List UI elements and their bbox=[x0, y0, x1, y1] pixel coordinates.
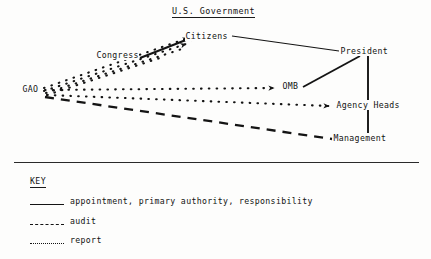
node-gao[interactable]: GAO bbox=[22, 84, 39, 94]
node-congress[interactable]: Congress bbox=[96, 50, 139, 60]
key-item-report: report bbox=[30, 234, 102, 246]
solid-edges bbox=[140, 36, 368, 138]
dashed-edges bbox=[45, 97, 332, 139]
key-item-audit: audit bbox=[30, 215, 96, 227]
node-citizens[interactable]: Citizens bbox=[185, 31, 228, 41]
edge-citizens-to-president bbox=[232, 36, 339, 51]
node-president[interactable]: President bbox=[340, 46, 389, 56]
edge-gao-fan-b bbox=[47, 58, 160, 95]
section-divider bbox=[14, 162, 419, 163]
diagram-page: U.S. Government bbox=[0, 0, 431, 259]
key-item-appointment: appointment, primary authority, responsi… bbox=[30, 195, 313, 207]
node-omb[interactable]: OMB bbox=[282, 81, 299, 91]
key-item-label: audit bbox=[70, 216, 96, 226]
edge-president-to-omb bbox=[303, 56, 360, 87]
edge-gao-to-agency-heads bbox=[47, 95, 329, 106]
key-legend: KEY appointment, primary authority, resp… bbox=[0, 168, 431, 259]
edge-gao-to-omb bbox=[45, 88, 274, 90]
dotted-line-swatch-icon bbox=[30, 235, 64, 245]
solid-line-swatch-icon bbox=[30, 196, 64, 206]
edge-gao-to-management bbox=[45, 97, 332, 139]
key-heading: KEY bbox=[30, 176, 46, 188]
dotted-edges bbox=[44, 38, 329, 106]
edge-gao-to-citizens bbox=[44, 38, 188, 88]
organization-diagram: U.S. Government bbox=[0, 0, 431, 160]
dashed-line-swatch-icon bbox=[30, 216, 64, 226]
key-item-label: report bbox=[70, 235, 102, 245]
node-management[interactable]: Management bbox=[333, 133, 387, 143]
key-item-label: appointment, primary authority, responsi… bbox=[70, 196, 313, 206]
node-agency-heads[interactable]: Agency Heads bbox=[336, 100, 400, 110]
